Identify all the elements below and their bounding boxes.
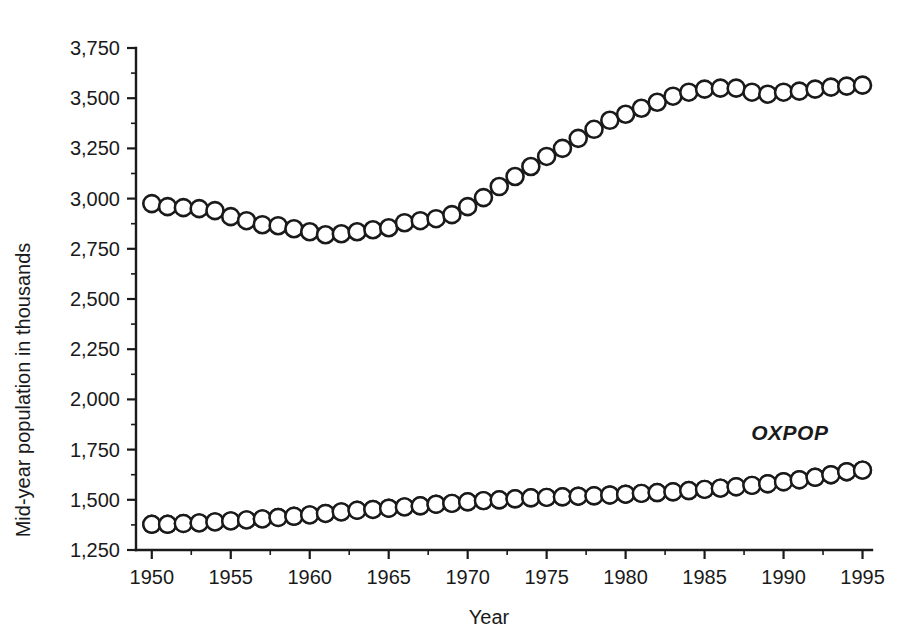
y-tick-label: 3,500 bbox=[70, 87, 120, 109]
x-tick-label: 1960 bbox=[287, 566, 332, 588]
data-point-marker bbox=[633, 100, 650, 117]
data-point-marker-ring bbox=[728, 478, 745, 495]
data-point-marker bbox=[301, 223, 318, 240]
series-annotations: OXPOP bbox=[751, 421, 829, 444]
data-point-marker bbox=[696, 81, 713, 98]
data-point-marker-ring bbox=[743, 477, 760, 494]
data-point-marker bbox=[143, 195, 160, 212]
data-point-marker-ring bbox=[443, 495, 460, 512]
data-point-marker bbox=[712, 80, 729, 97]
data-point-marker bbox=[743, 84, 760, 101]
data-point-marker-ring bbox=[428, 496, 445, 513]
data-point-marker bbox=[665, 88, 682, 105]
data-point-marker bbox=[159, 198, 176, 215]
data-point-marker bbox=[364, 221, 381, 238]
data-point-marker-ring bbox=[396, 498, 413, 515]
data-point-marker-ring bbox=[680, 482, 697, 499]
x-axis bbox=[136, 550, 872, 559]
data-point-marker bbox=[254, 216, 271, 233]
x-tick-label: 1985 bbox=[682, 566, 727, 588]
data-point-marker bbox=[270, 217, 287, 234]
data-point-marker-ring bbox=[333, 503, 350, 520]
data-point-marker-ring bbox=[538, 489, 555, 506]
data-point-marker bbox=[601, 112, 618, 129]
x-tick-label: 1970 bbox=[445, 566, 490, 588]
data-point-marker bbox=[554, 140, 571, 157]
data-point-marker bbox=[491, 178, 508, 195]
data-point-marker-ring bbox=[491, 491, 508, 508]
data-point-marker-ring bbox=[175, 515, 192, 532]
data-point-marker bbox=[617, 106, 634, 123]
data-point-marker bbox=[854, 77, 871, 94]
data-point-marker-ring bbox=[159, 516, 176, 533]
data-point-marker bbox=[728, 80, 745, 97]
x-axis-title: Year bbox=[469, 606, 510, 628]
data-point-marker bbox=[570, 130, 587, 147]
data-point-marker bbox=[349, 223, 366, 240]
chart-figure: 1,2501,5001,7502,0002,2502,5002,7503,000… bbox=[0, 0, 898, 642]
data-point-marker bbox=[759, 86, 776, 103]
y-axis-title: Mid-year population in thousands bbox=[12, 243, 34, 538]
y-tick-label: 1,500 bbox=[70, 489, 120, 511]
data-point-marker-ring bbox=[412, 497, 429, 514]
data-point-marker-ring bbox=[712, 480, 729, 497]
data-point-marker bbox=[586, 121, 603, 138]
x-tick-label: 1955 bbox=[209, 566, 254, 588]
data-point-marker-ring bbox=[301, 506, 318, 523]
data-point-marker bbox=[443, 206, 460, 223]
data-point-marker bbox=[428, 210, 445, 227]
y-tick-label: 2,250 bbox=[70, 338, 120, 360]
data-point-marker-ring bbox=[854, 462, 871, 479]
data-point-marker-ring bbox=[317, 505, 334, 522]
data-point-marker-ring bbox=[759, 475, 776, 492]
data-point-marker bbox=[206, 202, 223, 219]
data-point-marker-ring bbox=[601, 486, 618, 503]
data-point-marker-ring bbox=[191, 514, 208, 531]
data-point-marker bbox=[791, 83, 808, 100]
x-tick-label: 1980 bbox=[603, 566, 648, 588]
y-tick-label: 2,000 bbox=[70, 388, 120, 410]
data-point-marker-ring bbox=[475, 492, 492, 509]
data-point-marker bbox=[222, 208, 239, 225]
data-point-marker bbox=[459, 198, 476, 215]
data-point-marker bbox=[807, 81, 824, 98]
data-point-marker-ring bbox=[586, 487, 603, 504]
data-point-marker bbox=[649, 94, 666, 111]
data-point-marker-ring bbox=[822, 466, 839, 483]
y-tick-label: 3,750 bbox=[70, 37, 120, 59]
y-tick-label: 2,750 bbox=[70, 238, 120, 260]
data-point-marker-ring bbox=[459, 493, 476, 510]
data-point-marker-ring bbox=[270, 509, 287, 526]
y-tick-label: 1,250 bbox=[70, 539, 120, 561]
data-series-group bbox=[143, 77, 871, 533]
x-tick-label: 1950 bbox=[130, 566, 175, 588]
x-tick-label: 1965 bbox=[366, 566, 411, 588]
series-line bbox=[152, 85, 863, 235]
data-point-marker-ring bbox=[696, 481, 713, 498]
data-point-marker bbox=[191, 200, 208, 217]
data-point-marker-ring bbox=[364, 501, 381, 518]
data-point-marker bbox=[285, 220, 302, 237]
data-point-marker-ring bbox=[285, 508, 302, 525]
data-point-marker-ring bbox=[649, 484, 666, 501]
data-point-marker bbox=[380, 219, 397, 236]
y-tick-labels: 1,2501,5001,7502,0002,2502,5002,7503,000… bbox=[70, 37, 120, 561]
y-tick-label: 3,000 bbox=[70, 188, 120, 210]
data-point-marker-ring bbox=[507, 490, 524, 507]
y-tick-label: 3,250 bbox=[70, 137, 120, 159]
data-point-marker bbox=[775, 84, 792, 101]
data-point-marker-ring bbox=[380, 500, 397, 517]
data-point-marker bbox=[538, 148, 555, 165]
data-point-marker-ring bbox=[349, 502, 366, 519]
data-point-marker bbox=[822, 79, 839, 96]
y-tick-label: 1,750 bbox=[70, 439, 120, 461]
data-point-marker-ring bbox=[570, 488, 587, 505]
x-tick-label: 1995 bbox=[840, 566, 885, 588]
data-point-marker bbox=[396, 214, 413, 231]
data-point-marker-ring bbox=[206, 513, 223, 530]
data-point-marker-ring bbox=[222, 512, 239, 529]
x-tick-label: 1990 bbox=[761, 566, 806, 588]
data-point-marker-ring bbox=[254, 510, 271, 527]
data-point-marker bbox=[475, 189, 492, 206]
series-upper-series bbox=[143, 77, 871, 244]
